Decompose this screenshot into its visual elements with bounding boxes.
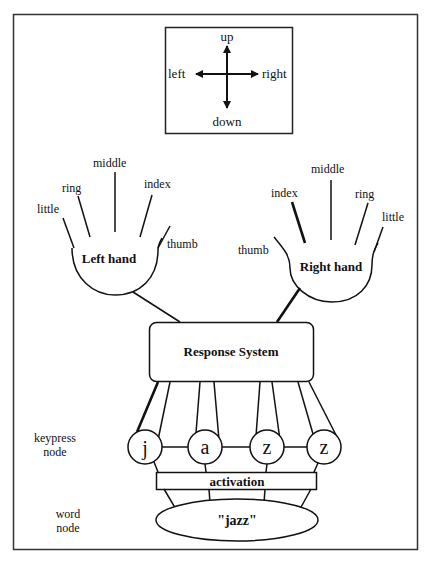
direction-box: up down left right <box>166 28 293 134</box>
left-finger-index: index <box>144 177 171 191</box>
left-hand-connector <box>133 292 180 322</box>
left-finger-ring: ring <box>62 181 81 195</box>
label-up: up <box>221 29 234 44</box>
word-label-line1: word <box>56 507 81 521</box>
keypress-label-line1: keypress <box>34 431 76 445</box>
right-ring-finger <box>355 203 368 245</box>
keypress-node-z2: z <box>307 430 341 464</box>
response-system: Response System <box>150 323 314 382</box>
left-finger-thumb: thumb <box>167 237 198 251</box>
right-little-finger <box>374 227 383 252</box>
label-left: left <box>168 66 186 81</box>
left-finger-little: little <box>37 202 59 216</box>
word-label-line2: node <box>56 521 79 535</box>
left-little-finger <box>63 218 74 248</box>
right-hand-title: Right hand <box>300 259 363 274</box>
right-finger-ring: ring <box>355 187 374 201</box>
keypress-node-a: a <box>188 430 222 464</box>
right-finger-little: little <box>382 210 404 224</box>
activation-bar: activation <box>157 473 317 490</box>
right-finger-middle: middle <box>311 162 344 176</box>
right-index-finger <box>292 202 305 243</box>
activation-label: activation <box>210 474 266 489</box>
keypress-node-z1: z <box>250 430 284 464</box>
left-hand: little ring middle index thumb Left hand <box>37 156 198 295</box>
right-hand: thumb index middle ring little Right han… <box>238 162 404 302</box>
right-hand-connector <box>277 288 300 322</box>
svg-text:z: z <box>320 436 329 458</box>
keypress-node-j: j <box>128 430 162 464</box>
label-right: right <box>262 66 287 81</box>
word-node-value: "jazz" <box>217 513 257 528</box>
response-system-label: Response System <box>184 344 279 359</box>
node-activation-links <box>154 462 318 472</box>
word-node: "jazz" <box>156 499 318 541</box>
svg-text:a: a <box>201 436 210 458</box>
label-down: down <box>213 114 242 129</box>
diagram-canvas: up down left right little ring middle in… <box>0 0 429 561</box>
right-finger-index: index <box>271 186 298 200</box>
left-hand-title: Left hand <box>82 251 137 266</box>
left-ring-finger <box>78 196 90 237</box>
keypress-label-line2: node <box>43 445 66 459</box>
svg-text:j: j <box>141 437 148 460</box>
svg-text:z: z <box>263 436 272 458</box>
left-index-finger <box>140 195 152 237</box>
response-links <box>137 382 337 440</box>
right-finger-thumb: thumb <box>238 243 269 257</box>
outer-frame <box>14 15 418 550</box>
left-finger-middle: middle <box>93 156 126 170</box>
